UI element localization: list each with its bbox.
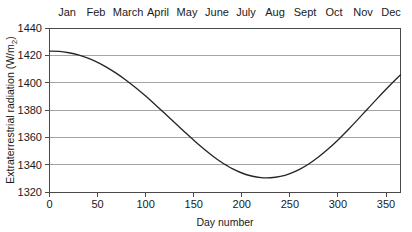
y-tick-label-1320: 1320 — [18, 186, 42, 198]
x-tick-label-300: 300 — [329, 198, 347, 210]
y-tick-label-1420: 1420 — [18, 49, 42, 61]
y-tick-label-1360: 1360 — [18, 131, 42, 143]
x-tick-label-0: 0 — [46, 198, 52, 210]
month-label-dec: Dec — [381, 6, 401, 18]
month-label-sept: Sept — [294, 6, 317, 18]
y-axis-title-tail: ) — [4, 36, 16, 40]
month-label-march: March — [113, 6, 144, 18]
month-label-aug: Aug — [265, 6, 285, 18]
y-tick-label-1400: 1400 — [18, 77, 42, 89]
month-label-nov: Nov — [353, 6, 373, 18]
month-label-june: June — [205, 6, 229, 18]
month-label-april: April — [147, 6, 169, 18]
month-label-feb: Feb — [87, 6, 106, 18]
x-tick-label-200: 200 — [233, 198, 251, 210]
y-tick-label-1440: 1440 — [18, 22, 42, 34]
extraterrestrial-radiation-chart: Jan Feb March April May June July Aug Se… — [0, 0, 412, 232]
y-axis-title-main: Extraterrestrial radiation (W/m — [4, 44, 16, 184]
y-tick-label-1380: 1380 — [18, 104, 42, 116]
month-label-july: July — [236, 6, 256, 18]
x-tick-label-50: 50 — [91, 198, 103, 210]
month-label-oct: Oct — [325, 6, 342, 18]
y-tick-label-1340: 1340 — [18, 159, 42, 171]
month-label-jan: Jan — [58, 6, 76, 18]
chart-background — [0, 0, 412, 232]
x-tick-label-150: 150 — [185, 198, 203, 210]
x-tick-label-250: 250 — [281, 198, 299, 210]
month-label-may: May — [177, 6, 198, 18]
x-tick-label-350: 350 — [377, 198, 395, 210]
chart-figure: Jan Feb March April May June July Aug Se… — [0, 0, 412, 232]
x-tick-label-100: 100 — [136, 198, 154, 210]
x-axis-title: Day number — [196, 216, 254, 228]
